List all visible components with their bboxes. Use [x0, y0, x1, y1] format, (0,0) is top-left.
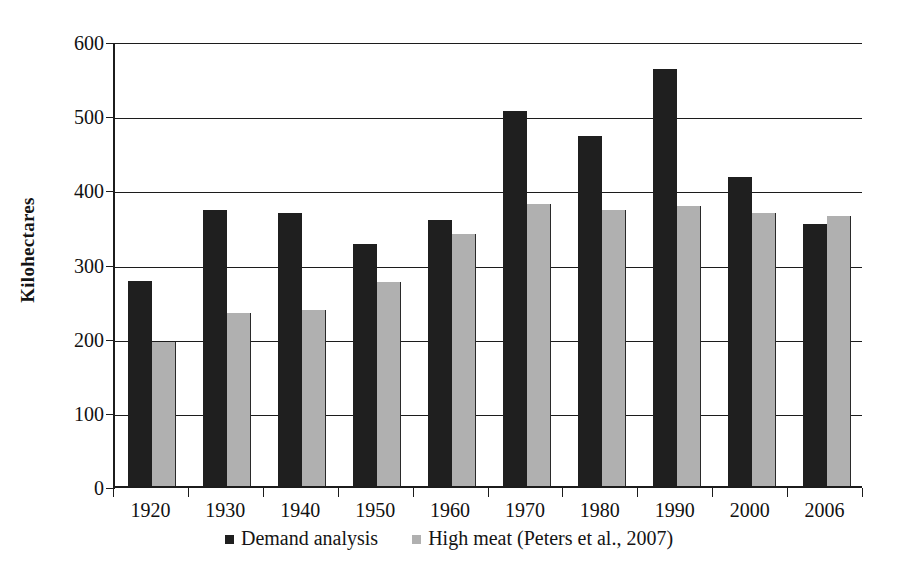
x-axis-tick-mark — [712, 488, 713, 497]
x-axis-tick-label: 1980 — [562, 500, 637, 520]
square-dark-swatch-icon — [225, 535, 234, 544]
x-axis-tick-mark — [188, 488, 189, 497]
bar-demand-analysis-1930 — [203, 210, 227, 486]
bar-high-meat-peters-et-al-2007-1950 — [377, 282, 401, 486]
bar-high-meat-peters-et-al-2007-1990 — [677, 206, 701, 486]
bar-high-meat-peters-et-al-2007-1940 — [302, 310, 326, 486]
legend-item[interactable]: High meat (Peters et al., 2007) — [412, 528, 673, 548]
x-axis-tick-label: 1950 — [338, 500, 413, 520]
bar-demand-analysis-1940 — [278, 213, 302, 486]
bar-demand-analysis-1960 — [428, 220, 452, 486]
x-axis-tick-mark — [637, 488, 638, 497]
bar-group — [115, 44, 190, 486]
x-axis-tick-mark — [488, 488, 489, 497]
x-axis-tick-mark — [338, 488, 339, 497]
bar-high-meat-peters-et-al-2007-1960 — [452, 234, 476, 486]
bar-high-meat-peters-et-al-2007-1930 — [227, 313, 251, 486]
x-axis-tick-label: 1930 — [188, 500, 263, 520]
x-axis-tick-label: 1940 — [263, 500, 338, 520]
bar-group — [265, 44, 340, 486]
x-axis-tick-mark — [862, 488, 863, 497]
legend-item[interactable]: Demand analysis — [225, 528, 378, 548]
y-axis-tick-marks — [0, 43, 120, 488]
x-axis-tick-label: 1920 — [113, 500, 188, 520]
legend-label: High meat (Peters et al., 2007) — [428, 528, 673, 548]
bar-high-meat-peters-et-al-2007-1970 — [527, 204, 551, 486]
bar-group — [789, 44, 864, 486]
x-axis-tick-label: 1960 — [413, 500, 488, 520]
bar-demand-analysis-1990 — [653, 69, 677, 486]
bar-high-meat-peters-et-al-2007-2000 — [752, 213, 776, 486]
x-axis-tick-label: 1990 — [637, 500, 712, 520]
legend-label: Demand analysis — [241, 528, 378, 548]
bar-demand-analysis-1950 — [353, 244, 377, 486]
bar-high-meat-peters-et-al-2007-1920 — [152, 342, 176, 486]
x-axis-tick-mark — [113, 488, 114, 497]
bar-demand-analysis-1980 — [578, 136, 602, 486]
x-axis-tick-labels: 1920193019401950196019701980199020002006 — [113, 500, 862, 526]
x-axis-tick-label: 2000 — [712, 500, 787, 520]
plot-area — [113, 43, 862, 488]
bar-group — [490, 44, 565, 486]
bar-demand-analysis-1920 — [128, 281, 152, 486]
bar-group — [714, 44, 789, 486]
chart-legend: Demand analysisHigh meat (Peters et al.,… — [0, 528, 898, 548]
bar-group — [190, 44, 265, 486]
bar-group — [564, 44, 639, 486]
bar-demand-analysis-2006 — [803, 224, 827, 486]
x-axis-tick-mark — [413, 488, 414, 497]
x-axis-tick-mark — [787, 488, 788, 497]
bar-demand-analysis-2000 — [728, 177, 752, 486]
x-axis-tick-label: 2006 — [787, 500, 862, 520]
bar-high-meat-peters-et-al-2007-2006 — [827, 216, 851, 486]
x-axis-tick-mark — [263, 488, 264, 497]
square-gray-swatch-icon — [412, 535, 421, 544]
bar-group — [415, 44, 490, 486]
bar-high-meat-peters-et-al-2007-1980 — [602, 210, 626, 486]
bar-group — [340, 44, 415, 486]
bar-group — [639, 44, 714, 486]
bar-demand-analysis-1970 — [503, 111, 527, 486]
bar-chart-figure: Kilohectares 0100200300400500600 1920193… — [0, 0, 898, 581]
x-axis-tick-label: 1970 — [488, 500, 563, 520]
x-axis-tick-mark — [562, 488, 563, 497]
